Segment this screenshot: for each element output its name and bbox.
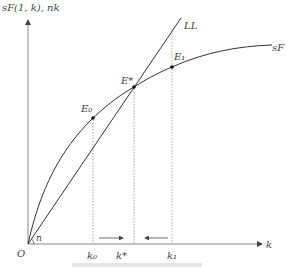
point-e1 [170,65,174,69]
x-axis-label: k [266,239,272,250]
kstar-label: k* [116,250,127,261]
angle-arc [32,239,35,244]
caption-blur [72,263,202,267]
sf-label: sF [272,42,285,53]
sf-curve [28,45,272,244]
ll-line [28,18,181,244]
angle-label: n [36,233,42,243]
origin-label: O [17,248,25,259]
e1-label: E₁ [173,51,185,62]
y-axis-label: sF(1, k), nk [2,2,60,13]
k1-label: k₁ [167,250,177,261]
steady-state-diagram: sF(1, k), nk k O n LL sF E₀ E* E₁ k₀ k* … [0,0,287,268]
estar-label: E* [120,75,133,86]
point-e0 [91,116,95,120]
k0-label: k₀ [87,250,97,261]
e0-label: E₀ [80,103,92,114]
ll-label: LL [183,20,198,31]
